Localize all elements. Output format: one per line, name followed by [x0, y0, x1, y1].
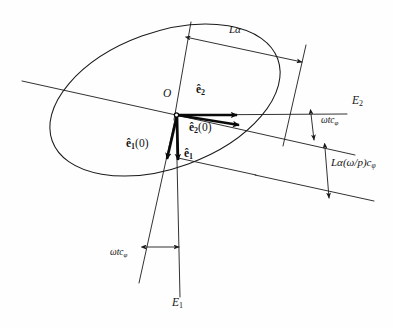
vector-label-e1-hat: ê1	[184, 148, 193, 161]
dimension-guide-left	[174, 22, 191, 120]
axis-label-e2-base: E	[352, 94, 359, 106]
e1-hat-zero-argument: (0)	[135, 137, 148, 149]
omega-t-upper-base: ωtc	[321, 115, 335, 125]
origin-label: O	[163, 88, 171, 100]
vector-label-e2-hat: ê2	[196, 84, 205, 97]
omega-t-lower-subscript: φ	[124, 251, 128, 259]
axis-label-e1-base: E	[172, 296, 179, 308]
vector-e1-hat	[177, 116, 178, 160]
axis-label-e1: E1	[172, 297, 183, 310]
vector-label-e1-hat-zero: ê1(0)	[126, 138, 149, 151]
axis-label-e2-subscript: 2	[359, 99, 363, 108]
l-alpha-omega-subscript: φ	[371, 161, 375, 170]
omega-t-upper-subscript: φ	[335, 119, 339, 127]
dimension-arrow-l-alpha	[190, 38, 302, 62]
orbit-ellipse	[29, 0, 301, 205]
dimension-label-l-alpha-omega-p-c-phi: Lα(ω/p)cφ	[331, 157, 376, 169]
e2-hat-subscript: 2	[201, 88, 205, 97]
e2-hat-zero-argument: (0)	[198, 121, 211, 133]
l-alpha-omega-base: Lα(ω/p)c	[331, 156, 371, 168]
omega-t-lower-base: ωtc	[110, 247, 124, 257]
dimension-arrow-omega-t-upper	[311, 114, 314, 140]
figure-root: O E2 E1 ê2 ê2(0) ê1 ê1(0) Lα Lα(ω/p)cφ ω…	[0, 0, 393, 329]
dimension-label-omega-t-c-phi-upper: ωtcφ	[321, 116, 338, 127]
dimension-label-omega-t-c-phi-lower: ωtcφ	[110, 248, 127, 259]
vector-label-e2-hat-zero: ê2(0)	[189, 122, 212, 135]
origin-point	[174, 113, 178, 117]
e1-hat-subscript: 1	[189, 152, 193, 161]
vector-e1-hat-zero	[167, 116, 177, 159]
axis-label-e1-subscript: 1	[179, 301, 183, 310]
axis-label-e2: E2	[352, 95, 363, 108]
dimension-label-l-alpha: Lα	[229, 24, 241, 35]
